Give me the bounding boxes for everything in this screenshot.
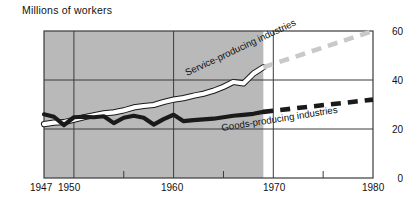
service-producing-projection-line	[263, 31, 373, 67]
chart-container: Millions of workers 60 40 20 0 1947 1950…	[0, 0, 403, 214]
chart-plot: Service-producing industries Goods-produ…	[0, 0, 403, 214]
